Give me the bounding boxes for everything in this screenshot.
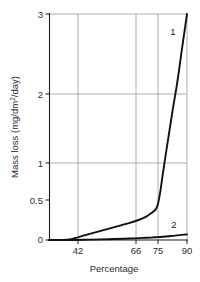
series-label-2: 2 xyxy=(171,219,176,230)
y-tick-label-3: 3 xyxy=(38,9,43,20)
x-tick-label-42: 42 xyxy=(73,245,84,256)
x-axis-title: Percentage xyxy=(90,263,139,274)
series-label-1: 1 xyxy=(170,26,175,37)
plot-area-background xyxy=(49,14,187,240)
y-tick-label-0: 0 xyxy=(38,234,43,245)
y-axis-title-prefix: Mass loss (mg/dm xyxy=(9,101,20,178)
x-tick-labels: 42 66 75 90 xyxy=(73,245,193,256)
y-axis-title-suffix: /day) xyxy=(9,76,20,97)
x-tick-label-90: 90 xyxy=(182,245,193,256)
x-tick-label-66: 66 xyxy=(131,245,142,256)
x-tick-label-75: 75 xyxy=(153,245,164,256)
chart-figure: 0 0.5 1 2 3 42 66 75 90 1 2 Percentage M… xyxy=(0,0,200,282)
x-tick-marks xyxy=(78,240,187,244)
chart-svg: 0 0.5 1 2 3 42 66 75 90 1 2 Percentage M… xyxy=(0,0,200,282)
y-tick-labels: 0 0.5 1 2 3 xyxy=(30,9,43,245)
y-axis-title: Mass loss (mg/dm2/day) xyxy=(9,76,21,178)
y-tick-label-2: 2 xyxy=(38,89,43,100)
y-tick-label-0-5: 0.5 xyxy=(30,195,43,206)
y-tick-marks xyxy=(46,14,50,240)
y-tick-label-1: 1 xyxy=(38,158,43,169)
